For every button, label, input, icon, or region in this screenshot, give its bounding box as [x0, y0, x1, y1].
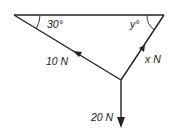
- left-string: [14, 15, 121, 80]
- arrow-down-icon: [117, 117, 125, 128]
- angle-label-right: y°: [129, 18, 139, 30]
- force-label-right: x N: [144, 53, 161, 65]
- force-label-down: 20 N: [90, 111, 114, 123]
- force-label-left: 10 N: [46, 55, 69, 67]
- angle-arc-left: [36, 15, 40, 28]
- angle-label-left: 30°: [47, 18, 63, 30]
- force-diagram: 30° y° 10 N x N 20 N: [0, 0, 178, 133]
- angle-arc-right: [147, 15, 155, 30]
